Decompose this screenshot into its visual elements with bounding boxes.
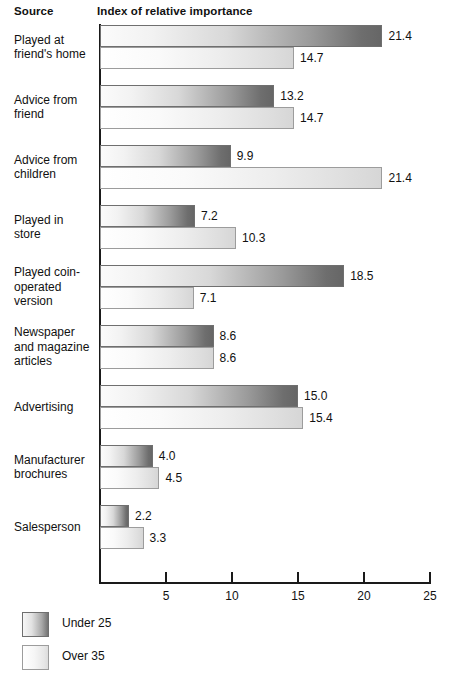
- bar-value-label: 10.3: [242, 227, 265, 249]
- category-label-line: store: [14, 227, 98, 242]
- bar-value-label: 15.4: [309, 407, 332, 429]
- x-axis-tick-label: 10: [225, 589, 238, 603]
- bar-under25: [100, 205, 195, 227]
- bar-value-label: 13.2: [280, 85, 303, 107]
- category-label-line: children: [14, 167, 98, 182]
- category-label-line: operated: [14, 280, 98, 295]
- bar-over35: [100, 467, 159, 489]
- bar-value-label: 21.4: [388, 25, 411, 47]
- legend-label: Under 25: [62, 616, 111, 630]
- category-label-line: Played in: [14, 213, 98, 228]
- x-axis-tick-label: 25: [423, 589, 436, 603]
- category-label-line: friend's home: [14, 47, 98, 62]
- bar-value-label: 9.9: [237, 145, 254, 167]
- plot-area: 510152025 Played atfriend's homeAdvice f…: [0, 0, 454, 600]
- bar-value-label: 7.2: [201, 205, 218, 227]
- category-label-line: articles: [14, 354, 98, 369]
- bar-value-label: 21.4: [388, 167, 411, 189]
- x-axis-tick: [231, 572, 233, 583]
- legend-swatch-over35: [22, 645, 49, 670]
- bar-under25: [100, 25, 382, 47]
- bar-under25: [100, 505, 129, 527]
- bar-value-label: 18.5: [350, 265, 373, 287]
- bar-over35: [100, 167, 382, 189]
- category-label-line: version: [14, 294, 98, 309]
- category-label: Played instore: [14, 213, 98, 242]
- bar-under25: [100, 85, 274, 107]
- bar-value-label: 8.6: [220, 347, 237, 369]
- bar-value-label: 2.2: [135, 505, 152, 527]
- bar-over35: [100, 407, 303, 429]
- bar-over35: [100, 287, 194, 309]
- x-axis-tick-label: 15: [291, 589, 304, 603]
- chart-container: Source Index of relative importance 5101…: [0, 0, 454, 680]
- bar-over35: [100, 107, 294, 129]
- bar-value-label: 7.1: [200, 287, 217, 309]
- x-axis-tick: [165, 572, 167, 583]
- bar-value-label: 4.0: [159, 445, 176, 467]
- category-label: Manufacturerbrochures: [14, 453, 98, 482]
- category-label-line: and magazine: [14, 340, 98, 355]
- category-label-line: Manufacturer: [14, 453, 98, 468]
- bar-value-label: 3.3: [150, 527, 167, 549]
- bar-over35: [100, 47, 294, 69]
- x-axis-tick: [363, 572, 365, 583]
- bar-under25: [100, 265, 344, 287]
- category-label-line: friend: [14, 107, 98, 122]
- category-label: Played coin-operatedversion: [14, 265, 98, 309]
- x-axis-tick-label: 20: [357, 589, 370, 603]
- category-label: Salesperson: [14, 520, 98, 535]
- legend: Under 25Over 35: [0, 612, 454, 680]
- bar-over35: [100, 527, 144, 549]
- x-axis-tick-label: 5: [163, 589, 170, 603]
- category-label: Advice fromchildren: [14, 153, 98, 182]
- category-label-line: Played at: [14, 33, 98, 48]
- x-axis-tick: [297, 572, 299, 583]
- category-label-line: Advice from: [14, 93, 98, 108]
- bar-under25: [100, 145, 231, 167]
- category-label: Newspaperand magazinearticles: [14, 325, 98, 369]
- category-label-line: Advice from: [14, 153, 98, 168]
- x-axis-tick: [429, 572, 431, 583]
- bar-over35: [100, 227, 236, 249]
- bar-value-label: 4.5: [165, 467, 182, 489]
- category-label-line: brochures: [14, 467, 98, 482]
- bar-under25: [100, 325, 214, 347]
- bar-value-label: 14.7: [300, 107, 323, 129]
- category-label: Advice fromfriend: [14, 93, 98, 122]
- bar-value-label: 15.0: [304, 385, 327, 407]
- category-label-line: Salesperson: [14, 520, 98, 535]
- category-label-line: Played coin-: [14, 265, 98, 280]
- bar-under25: [100, 445, 153, 467]
- legend-swatch-under25: [22, 612, 49, 637]
- legend-label: Over 35: [62, 649, 105, 663]
- bar-over35: [100, 347, 214, 369]
- bar-value-label: 14.7: [300, 47, 323, 69]
- category-label-line: Advertising: [14, 400, 98, 415]
- x-axis-line: [99, 582, 431, 584]
- bar-under25: [100, 385, 298, 407]
- category-label-line: Newspaper: [14, 325, 98, 340]
- bar-value-label: 8.6: [220, 325, 237, 347]
- category-label: Advertising: [14, 400, 98, 415]
- category-label: Played atfriend's home: [14, 33, 98, 62]
